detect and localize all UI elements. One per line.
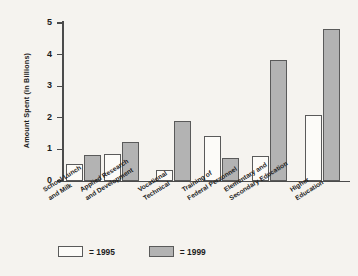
bar-chart: Amount Spent (in Billions) 012345 School… <box>0 0 358 276</box>
chart-legend: = 1995 = 1999 <box>58 246 206 257</box>
y-axis-tick-label-2: 2 <box>38 113 52 122</box>
y-axis-tick-label-1: 1 <box>38 144 52 153</box>
y-axis-tick-label-3: 3 <box>38 81 52 90</box>
gray-swatch-icon <box>149 246 174 257</box>
y-axis-tick-label-5: 5 <box>38 18 52 27</box>
y-axis-tick-label-4: 4 <box>38 50 52 59</box>
y-axis-tick-5 <box>57 22 64 23</box>
legend-label-1999: = 1999 <box>180 247 206 257</box>
y-axis-line <box>62 21 64 182</box>
white-swatch-icon <box>58 246 83 257</box>
legend-item-1999: = 1999 <box>149 246 206 257</box>
y-axis-tick-1 <box>57 149 64 150</box>
legend-item-1995: = 1995 <box>58 246 115 257</box>
y-axis-tick-2 <box>57 117 64 118</box>
y-axis-tick-4 <box>57 54 64 55</box>
legend-label-1995: = 1995 <box>89 247 115 257</box>
y-axis-tick-3 <box>57 86 64 87</box>
y-axis-title: Amount Spent (in Billions) <box>22 41 31 161</box>
